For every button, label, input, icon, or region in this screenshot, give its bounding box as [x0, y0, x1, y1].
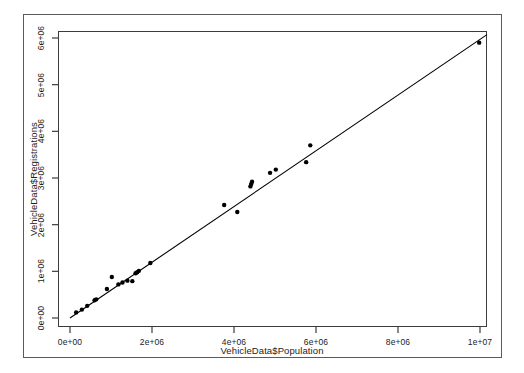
- plot-panel-border: [58, 31, 487, 327]
- x-tick-label: 8e+06: [386, 337, 410, 347]
- scatter-plot-figure: 0e+002e+064e+066e+068e+061e+07 0e+001e+0…: [0, 0, 524, 373]
- y-tick-label: 5e+06: [36, 72, 46, 96]
- y-tick-label: 0e+00: [36, 306, 46, 330]
- x-tick-label: 2e+06: [140, 337, 164, 347]
- y-tick-label: 6e+06: [36, 26, 46, 50]
- y-axis-title: VehicleData$Registrations: [28, 122, 39, 236]
- x-axis-title: VehicleData$Population: [220, 345, 323, 356]
- x-tick-label: 1e+07: [468, 337, 492, 347]
- y-tick-label: 1e+06: [36, 259, 46, 283]
- x-tick-label: 0e+00: [58, 337, 82, 347]
